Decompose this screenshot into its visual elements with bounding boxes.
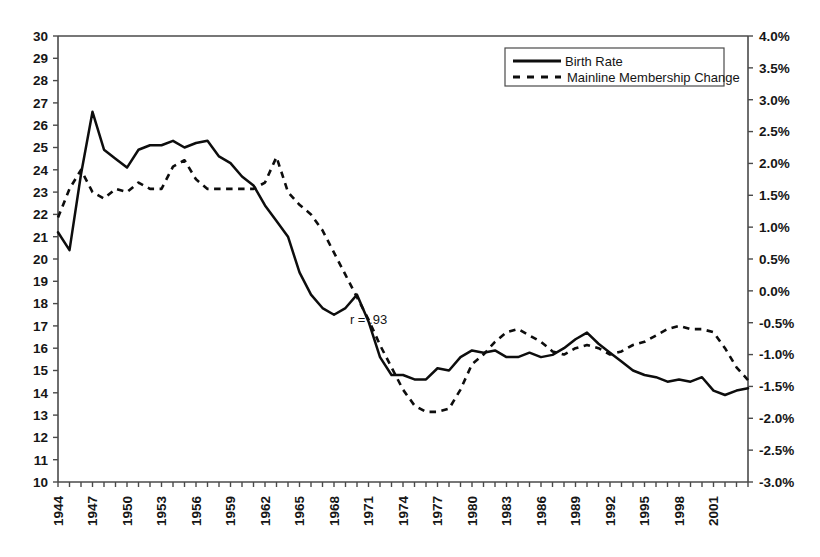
y-axis-left-labels: 1011121314151617181920212223242526272829… — [33, 29, 49, 490]
x-axis-tick-label: 1959 — [223, 496, 238, 526]
y-axis-left-tick-label: 27 — [33, 96, 48, 111]
y-axis-right-tick-label: 2.5% — [759, 124, 790, 139]
y-axis-right-tick-label: 3.5% — [759, 61, 790, 76]
y-axis-left-tick-label: 10 — [33, 475, 48, 490]
y-axis-left-tick-label: 25 — [33, 140, 49, 155]
y-axis-left-tick-label: 20 — [33, 252, 48, 267]
y-axis-left-tick-label: 22 — [33, 207, 48, 222]
x-axis-tick-label: 2001 — [706, 496, 721, 527]
x-axis-tick-label: 1965 — [292, 496, 307, 527]
y-axis-left-tick-label: 17 — [33, 319, 48, 334]
x-axis-tick-label: 1998 — [672, 496, 687, 527]
y-axis-right-tick-label: 3.0% — [759, 93, 790, 108]
y-axis-right-tick-label: 1.0% — [759, 220, 790, 235]
y-axis-right-tick-label: -1.5% — [759, 379, 794, 394]
y-axis-left-tick-label: 21 — [33, 230, 49, 245]
y-axis-right-tick-label: -0.5% — [759, 316, 794, 331]
annotations-layer: r = .93 — [350, 312, 387, 327]
y-axis-right-tick-label: -2.5% — [759, 443, 794, 458]
y-axis-left-tick-label: 15 — [33, 363, 49, 378]
series-line-birth-rate — [58, 112, 748, 395]
y-axis-right-labels: -3.0%-2.5%-2.0%-1.5%-1.0%-0.5%0.0%0.5%1.… — [759, 29, 794, 490]
x-axis-tick-label: 1947 — [85, 496, 100, 526]
line-chart: 1011121314151617181920212223242526272829… — [0, 0, 820, 557]
y-axis-left-tick-label: 18 — [33, 296, 49, 311]
y-axis-right-tick-label: 2.0% — [759, 156, 790, 171]
x-axis-tick-label: 1971 — [361, 496, 376, 527]
y-axis-left-tick-label: 23 — [33, 185, 49, 200]
x-axis-tick-label: 1944 — [51, 496, 66, 527]
y-axis-right-tick-label: -3.0% — [759, 475, 794, 490]
legend: Birth Rate Mainline Membership Change — [505, 48, 740, 86]
x-axis-labels: 1944194719501953195619591962196519681971… — [51, 496, 722, 527]
x-axis-tick-label: 1989 — [568, 496, 583, 526]
y-axis-left-tick-label: 11 — [34, 453, 49, 468]
x-axis-tick-label: 1983 — [499, 496, 514, 527]
x-axis-tick-label: 1956 — [189, 496, 204, 527]
x-axis-tick-label: 1977 — [430, 496, 445, 526]
y-axis-left-tick-label: 19 — [33, 274, 48, 289]
y-axis-right-tick-label: 4.0% — [759, 29, 790, 44]
y-axis-right-tick-label: -2.0% — [759, 411, 794, 426]
y-axis-left-tick-label: 30 — [33, 29, 48, 44]
y-axis-right-tick-label: 0.5% — [759, 252, 790, 267]
x-axis-tick-label: 1992 — [603, 496, 618, 526]
y-axis-left-tick-label: 26 — [33, 118, 49, 133]
correlation-annotation: r = .93 — [350, 312, 387, 327]
x-axis-tick-label: 1974 — [396, 496, 411, 527]
y-axis-left-tick-label: 14 — [33, 386, 49, 401]
x-axis-tick-label: 1962 — [258, 496, 273, 526]
legend-label-birth-rate: Birth Rate — [565, 54, 623, 69]
x-axis-tick-label: 1995 — [637, 496, 652, 527]
y-axis-left-tick-label: 28 — [33, 73, 49, 88]
x-axis-tick-label: 1980 — [465, 496, 480, 526]
y-axis-right-tick-label: 0.0% — [759, 284, 790, 299]
y-axis-left-tick-label: 24 — [33, 163, 49, 178]
y-axis-right-tick-label: -1.0% — [759, 347, 794, 362]
y-axis-left-tick-label: 16 — [33, 341, 49, 356]
legend-label-mainline-membership-change: Mainline Membership Change — [567, 70, 740, 85]
y-axis-left-tick-label: 13 — [33, 408, 49, 423]
y-axis-left-tick-label: 29 — [33, 51, 48, 66]
x-axis-tick-label: 1953 — [154, 496, 169, 527]
x-axis-tick-label: 1986 — [534, 496, 549, 527]
y-axis-right-tick-label: 1.5% — [759, 188, 790, 203]
x-axis-tick-label: 1950 — [120, 496, 135, 526]
x-axis-tick-label: 1968 — [327, 496, 342, 527]
chart-figure: 1011121314151617181920212223242526272829… — [0, 0, 820, 557]
y-axis-left-tick-label: 12 — [33, 430, 48, 445]
